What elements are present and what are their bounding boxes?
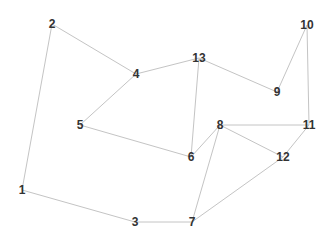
- edge-5-6: [80, 125, 191, 157]
- edge-13-6: [191, 58, 199, 157]
- node-layer: 12345678910111213: [19, 17, 316, 229]
- node-13: 13: [192, 51, 206, 65]
- node-9: 9: [274, 85, 281, 99]
- edge-1-3: [22, 190, 135, 222]
- edge-8-12: [220, 125, 283, 157]
- edge-1-2: [22, 24, 52, 190]
- node-11: 11: [303, 118, 316, 132]
- node-6: 6: [188, 150, 195, 164]
- edge-9-10: [277, 25, 307, 92]
- edge-10-11: [307, 25, 309, 125]
- edge-2-4: [52, 24, 136, 74]
- node-5: 5: [77, 118, 84, 132]
- edge-13-9: [199, 58, 277, 92]
- node-2: 2: [49, 17, 56, 31]
- edge-4-5: [80, 74, 136, 125]
- edge-layer: [22, 24, 309, 222]
- graph-canvas: 12345678910111213: [0, 0, 333, 238]
- node-4: 4: [133, 67, 140, 81]
- node-1: 1: [19, 183, 26, 197]
- edge-7-12: [192, 157, 283, 222]
- node-10: 10: [300, 18, 314, 32]
- node-7: 7: [189, 215, 196, 229]
- edge-8-7: [192, 125, 220, 222]
- node-12: 12: [276, 150, 290, 164]
- edge-4-13: [136, 58, 199, 74]
- node-3: 3: [132, 215, 139, 229]
- node-8: 8: [217, 118, 224, 132]
